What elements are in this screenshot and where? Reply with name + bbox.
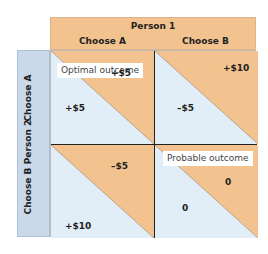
cell-b-a: –$5 +$10 [51, 145, 154, 238]
person1-header: Person 1 Choose A Choose B [50, 17, 256, 50]
person1-label: Person 1 [51, 21, 255, 31]
payoff-person2: 0 [182, 203, 188, 213]
row-choose-a-label: Choose A [23, 68, 33, 128]
payoff-matrix: Optimal outcome +$5 +$5 +$10 –$5 –$5 +$1… [50, 50, 256, 237]
probable-outcome-callout: Probable outcome [163, 151, 253, 166]
col-choose-a-label: Choose A [51, 36, 154, 46]
person2-header: Person 2 Choose A Choose B [17, 50, 50, 237]
row-choose-b-label: Choose B [23, 161, 33, 221]
payoff-person2: –$5 [177, 103, 194, 113]
payoff-person2: +$5 [65, 103, 85, 113]
col-choose-b-label: Choose B [154, 36, 257, 46]
cell-a-b: +$10 –$5 [155, 51, 258, 144]
cell-a-a: Optimal outcome +$5 +$5 [51, 51, 154, 144]
payoff-person1: +$5 [111, 68, 131, 78]
cell-b-b: Probable outcome 0 0 [155, 145, 258, 238]
payoff-person1: +$10 [223, 63, 249, 73]
payoff-person2: +$10 [65, 221, 91, 231]
row-divider [51, 144, 257, 145]
payoff-person1: 0 [225, 177, 231, 187]
payoff-person1: –$5 [111, 161, 128, 171]
